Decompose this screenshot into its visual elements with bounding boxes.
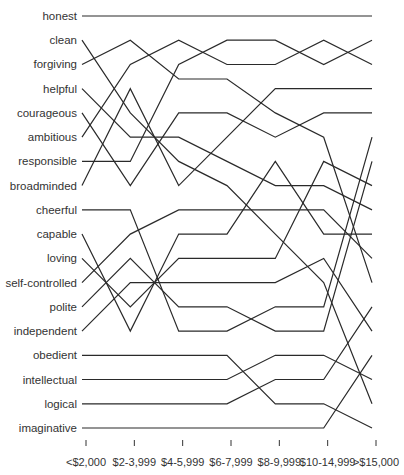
series-line-obedient [82,355,372,428]
x-tick-label: $10-14,999 [300,456,356,468]
row-label-cheerful: cheerful [36,204,77,216]
rank-chart: honestcleanforgivinghelpfulcourageousamb… [0,0,404,475]
x-tick-label: $4-5,999 [161,456,204,468]
series-line-responsible [82,40,372,161]
x-tick-label: $6-7,999 [209,456,252,468]
series-line-imaginative [82,355,372,428]
row-label-forgiving: forgiving [34,58,77,70]
row-label-capable: capable [37,228,77,240]
row-label-polite: polite [50,301,78,313]
series-line-broadminded [82,89,372,186]
x-tick-label: $8-9,999 [258,456,301,468]
x-tick-label: <$2,000 [66,456,106,468]
x-tick-label: >$15,000 [353,456,399,468]
row-label-logical: logical [44,398,77,410]
row-label-obedient: obedient [33,349,78,361]
row-label-honest: honest [42,10,77,22]
x-axis: <$2,000$2-3,999$4-5,999$6-7,999$8-9,999$… [66,440,399,468]
x-tick-label: $2-3,999 [113,456,156,468]
row-label-helpful: helpful [43,83,77,95]
row-label-ambitious: ambitious [28,131,77,143]
series-line-courageous [82,113,372,186]
series-line-capable [82,161,372,331]
row-label-clean: clean [50,34,78,46]
row-label-courageous: courageous [17,107,77,119]
row-label-loving: loving [47,252,77,264]
series-line-polite [82,161,372,331]
row-labels: honestcleanforgivinghelpfulcourageousamb… [5,10,77,434]
series-line-intellectual [82,355,372,379]
series-line-helpful [82,89,372,210]
series-line-self-controlled [82,210,372,283]
row-label-broadminded: broadminded [10,180,77,192]
row-label-independent: independent [14,325,78,337]
row-label-imaginative: imaginative [19,422,77,434]
row-label-responsible: responsible [18,155,77,167]
series-lines [82,16,372,428]
row-label-self-controlled: self-controlled [5,277,77,289]
row-label-intellectual: intellectual [23,374,77,386]
series-line-clean [82,40,372,404]
